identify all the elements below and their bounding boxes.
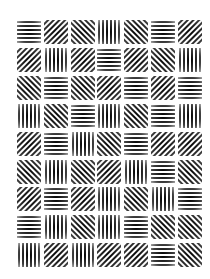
- gabor-patch-antidiagonal: [17, 160, 41, 184]
- gabor-patch-diagonal: [17, 187, 41, 211]
- gabor-patch-diagonal: [71, 187, 95, 211]
- gabor-patch-diagonal: [124, 48, 148, 72]
- gabor-patch-diagonal: [97, 160, 121, 184]
- gabor-patch-vertical: [97, 215, 121, 239]
- gabor-patch-antidiagonal: [97, 132, 121, 156]
- gabor-patch-horizontal: [44, 187, 68, 211]
- gabor-patch-diagonal: [44, 243, 68, 267]
- gabor-patch-antidiagonal: [71, 215, 95, 239]
- gabor-patch-diagonal: [71, 48, 95, 72]
- gabor-patch-diagonal: [178, 20, 202, 44]
- gabor-patch-diagonal: [178, 132, 202, 156]
- gabor-patch-horizontal: [17, 215, 41, 239]
- gabor-patch-vertical: [17, 104, 41, 128]
- gabor-patch-vertical: [124, 160, 148, 184]
- gabor-patch-antidiagonal: [71, 76, 95, 100]
- gabor-patch-horizontal: [151, 104, 175, 128]
- gabor-patch-antidiagonal: [124, 187, 148, 211]
- gabor-patch-horizontal: [44, 132, 68, 156]
- gabor-patch-horizontal: [151, 160, 175, 184]
- gabor-patch-diagonal: [97, 243, 121, 267]
- gabor-patch-horizontal: [71, 104, 95, 128]
- gabor-patch-diagonal: [97, 76, 121, 100]
- gabor-patch-vertical: [178, 48, 202, 72]
- gabor-patch-vertical: [97, 187, 121, 211]
- gabor-patch-vertical: [97, 20, 121, 44]
- gabor-patch-antidiagonal: [71, 20, 95, 44]
- gabor-patch-antidiagonal: [44, 104, 68, 128]
- gabor-patch-vertical: [97, 104, 121, 128]
- gabor-patch-antidiagonal: [178, 215, 202, 239]
- gabor-patch-diagonal: [17, 132, 41, 156]
- gabor-patch-horizontal: [44, 76, 68, 100]
- gabor-patch-diagonal: [151, 132, 175, 156]
- gabor-patch-horizontal: [17, 20, 41, 44]
- gabor-patch-vertical: [44, 160, 68, 184]
- gabor-patch-vertical: [17, 243, 41, 267]
- gabor-patch-antidiagonal: [151, 48, 175, 72]
- gabor-grid: [0, 0, 210, 279]
- gabor-patch-vertical: [151, 187, 175, 211]
- gabor-patch-horizontal: [151, 243, 175, 267]
- gabor-patch-antidiagonal: [124, 104, 148, 128]
- gabor-patch-horizontal: [124, 215, 148, 239]
- gabor-patch-vertical: [44, 48, 68, 72]
- gabor-patch-antidiagonal: [178, 160, 202, 184]
- gabor-patch-horizontal: [178, 187, 202, 211]
- gabor-patch-diagonal: [44, 20, 68, 44]
- gabor-patch-antidiagonal: [151, 215, 175, 239]
- gabor-patch-horizontal: [124, 76, 148, 100]
- gabor-patch-diagonal: [124, 243, 148, 267]
- gabor-patch-horizontal: [178, 76, 202, 100]
- gabor-patch-horizontal: [124, 132, 148, 156]
- gabor-patch-antidiagonal: [178, 243, 202, 267]
- gabor-patch-antidiagonal: [71, 160, 95, 184]
- gabor-patch-vertical: [44, 215, 68, 239]
- gabor-patch-vertical: [71, 243, 95, 267]
- gabor-patch-vertical: [178, 104, 202, 128]
- gabor-patch-horizontal: [97, 48, 121, 72]
- gabor-patch-horizontal: [151, 20, 175, 44]
- gabor-patch-antidiagonal: [17, 76, 41, 100]
- gabor-patch-diagonal: [17, 48, 41, 72]
- gabor-patch-antidiagonal: [124, 20, 148, 44]
- gabor-patch-vertical: [71, 132, 95, 156]
- gabor-patch-diagonal: [151, 76, 175, 100]
